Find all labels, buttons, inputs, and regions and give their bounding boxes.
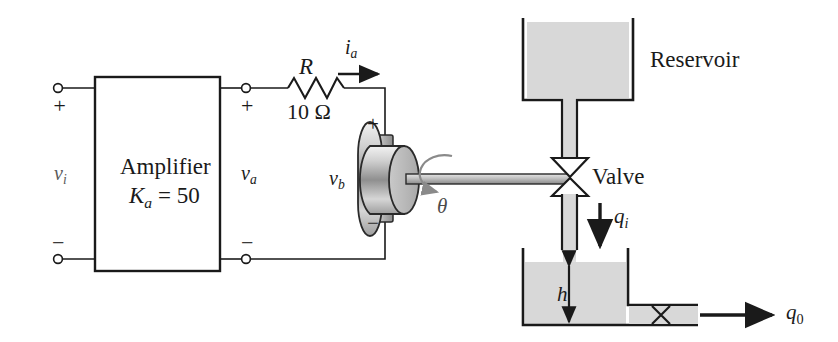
resistor-symbol-label: R: [299, 55, 313, 78]
output-voltage-subscript: a: [250, 172, 257, 187]
downpipe-fluid: [563, 98, 576, 160]
figure-canvas: + − vi Amplifier Ka = 50 + − va R 10 Ω i…: [0, 0, 838, 342]
shaft-angle-label: θ: [437, 196, 447, 217]
input-minus-sign: −: [52, 232, 64, 254]
tank-right-wall-and-outlet-top: [628, 248, 698, 305]
output-minus-sign: −: [241, 232, 253, 254]
input-voltage-label: vi: [54, 163, 67, 187]
outflow-symbol: q: [786, 300, 797, 324]
valve-outlet-fluid: [563, 194, 576, 250]
resistor-symbol: [288, 78, 344, 98]
output-plus-sign: +: [241, 95, 253, 117]
outlet-pipe-fluid: [629, 306, 698, 324]
reservoir-fluid: [527, 22, 629, 98]
inflow-symbol: q: [614, 204, 625, 228]
input-plus-sign: +: [52, 95, 67, 117]
back-emf-subscript: b: [338, 177, 345, 192]
input-plus-terminal: [54, 84, 63, 93]
motor-shaft: [406, 174, 570, 184]
output-minus-terminal: [242, 255, 251, 264]
reservoir-label: Reservoir: [650, 48, 739, 71]
input-voltage-symbol: v: [54, 162, 63, 184]
valve-label: Valve: [592, 165, 644, 188]
back-emf-symbol: v: [329, 167, 338, 189]
output-voltage-label: va: [241, 163, 257, 187]
resistor-value-label: 10 Ω: [287, 101, 331, 123]
motor-minus-sign: −: [367, 213, 379, 234]
input-voltage-subscript: i: [63, 172, 67, 187]
outflow-label: q0: [786, 302, 804, 326]
tank-fluid: [525, 262, 626, 325]
amplifier-name-label: Amplifier: [120, 155, 211, 178]
tank-height-label: h: [557, 284, 568, 305]
current-label: ia: [345, 37, 357, 61]
motor-plus-sign: +: [367, 114, 379, 135]
output-voltage-symbol: v: [241, 162, 250, 184]
current-subscript: a: [351, 46, 358, 61]
amplifier-gain-value: = 50: [152, 183, 199, 208]
outflow-subscript: 0: [797, 311, 804, 327]
output-plus-terminal: [242, 84, 251, 93]
inflow-label: qi: [614, 206, 628, 230]
amplifier-gain-subscript: a: [144, 194, 152, 211]
inflow-subscript: i: [625, 215, 629, 231]
motor-back-emf-label: vb: [329, 168, 345, 192]
amplifier-gain-symbol: K: [129, 183, 144, 208]
input-minus-terminal: [54, 255, 63, 264]
amplifier-gain-label: Ka = 50: [129, 184, 200, 211]
